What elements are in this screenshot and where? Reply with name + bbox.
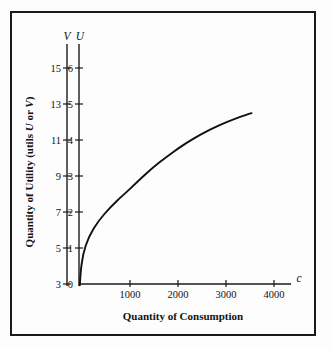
y-axis-title-svg: Quantity of Utility (utils U or V) Quant… <box>0 0 331 349</box>
y-axis-title-mid: or <box>23 108 35 124</box>
figure-container: 15 13 11 9 7 5 3 V 6 5 4 3 2 1 <box>0 0 331 349</box>
x-axis-title: Quantity of Consumption <box>123 310 243 322</box>
y-axis-title-post: ) <box>23 96 36 100</box>
y-axis-title: Quantity of Utility (utils U or V) <box>23 96 36 247</box>
y-axis-title-pre: Quantity of Utility (utils <box>23 131 36 247</box>
